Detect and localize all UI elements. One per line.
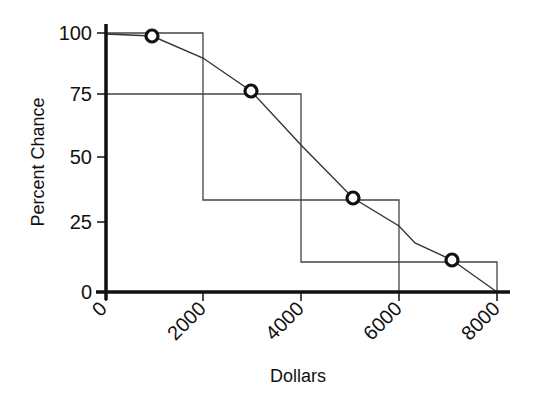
x-tick-label: 6000 [359, 297, 406, 344]
y-tick-label: 75 [70, 83, 92, 105]
x-tick-label: 2000 [163, 297, 210, 344]
marker-point [245, 85, 257, 97]
marker-point [146, 30, 158, 42]
y-tick-label: 0 [81, 281, 92, 303]
x-axis-title: Dollars [270, 366, 326, 386]
x-tick-label: 4000 [261, 297, 308, 344]
chart: 100 75 50 25 0 0 2000 4000 6000 8000 Dol… [0, 0, 537, 400]
y-tick-label: 100 [59, 22, 92, 44]
marker-point [347, 192, 359, 204]
y-axis-title: Percent Chance [28, 97, 48, 226]
x-tick-label: 0 [87, 297, 110, 320]
x-tick-label: 8000 [457, 297, 504, 344]
step-line-2 [106, 94, 497, 292]
y-tick-label: 25 [70, 211, 92, 233]
data-markers [146, 30, 458, 266]
marker-point [446, 254, 458, 266]
y-tick-label: 50 [70, 146, 92, 168]
step-line-1 [106, 33, 399, 292]
